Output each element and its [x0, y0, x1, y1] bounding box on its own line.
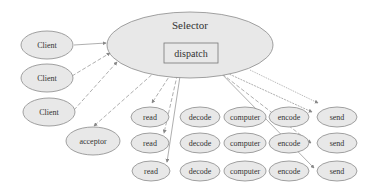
- client-label: Client: [39, 108, 59, 117]
- read-label: read: [143, 113, 157, 122]
- edge-client3-selector: [74, 62, 117, 110]
- pipeline-row-3: read decode computer encode send: [132, 161, 357, 181]
- client-node-3: Client: [23, 98, 75, 126]
- reactor-diagram: Selector dispatch Client Client Client a…: [0, 0, 375, 192]
- decode-label: decode: [189, 167, 212, 176]
- client-label: Client: [37, 74, 57, 83]
- selector-label: Selector: [172, 19, 208, 31]
- read-label: read: [144, 167, 158, 176]
- decode-label: decode: [189, 139, 212, 148]
- client-label: Client: [37, 41, 57, 50]
- client-node-1: Client: [21, 31, 73, 59]
- dispatch-node: dispatch: [164, 43, 218, 63]
- computer-label: computer: [230, 113, 261, 122]
- send-label: send: [330, 113, 345, 122]
- decode-label: decode: [189, 113, 212, 122]
- acceptor-label: acceptor: [79, 137, 106, 146]
- pipeline-row-1: read decode computer encode send: [131, 107, 357, 127]
- computer-label: computer: [230, 139, 261, 148]
- encode-label: encode: [278, 167, 301, 176]
- send-label: send: [330, 139, 345, 148]
- edge-selector-send1: [250, 70, 318, 103]
- encode-label: encode: [278, 139, 301, 148]
- encode-label: encode: [278, 113, 301, 122]
- computer-label: computer: [230, 167, 261, 176]
- acceptor-node: acceptor: [66, 127, 120, 155]
- client-node-2: Client: [21, 64, 73, 92]
- edge-client2-selector: [72, 53, 110, 76]
- send-label: send: [330, 167, 345, 176]
- pipeline-row-2: read decode computer encode send: [131, 133, 357, 153]
- read-label: read: [143, 139, 157, 148]
- dispatch-label: dispatch: [174, 48, 207, 59]
- edge-client1-selector: [74, 43, 106, 45]
